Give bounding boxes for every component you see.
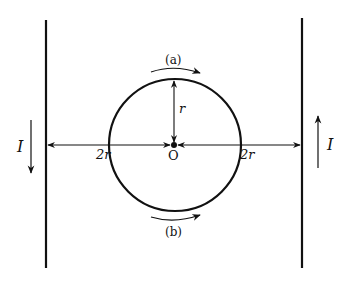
- radius-label: r: [179, 101, 186, 116]
- label-a: (a): [165, 53, 182, 67]
- left-distance-label: 2r: [95, 147, 111, 162]
- left-current-label: I: [16, 137, 24, 156]
- bottom-arc-arrow-icon: [151, 215, 200, 220]
- diagram-canvas: I I (a) (b) r O 2r 2r: [0, 0, 349, 286]
- right-distance-label: 2r: [239, 147, 255, 162]
- right-current-label: I: [326, 135, 334, 154]
- top-arc-arrow-icon: [151, 68, 200, 73]
- label-b: (b): [165, 225, 182, 239]
- center-label: O: [168, 148, 179, 163]
